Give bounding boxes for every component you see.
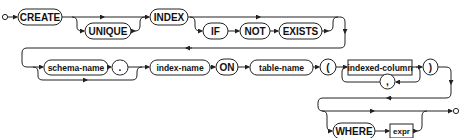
svg-text:schema-name: schema-name: [48, 63, 105, 73]
svg-text:ON: ON: [220, 62, 235, 73]
svg-text:WHERE: WHERE: [335, 126, 373, 137]
svg-text:NOT: NOT: [244, 26, 265, 37]
svg-text:index-name: index-name: [156, 63, 204, 73]
nonterminal-table-name: table-name: [250, 60, 313, 75]
terminal-unique: UNIQUE: [85, 23, 131, 39]
terminal-if: IF: [203, 23, 228, 39]
svg-text:IF: IF: [211, 26, 220, 37]
terminal-index: INDEX: [150, 9, 188, 25]
nonterminal-indexed-column: indexed-column: [347, 60, 412, 75]
svg-text:UNIQUE: UNIQUE: [89, 26, 128, 37]
svg-text:CREATE: CREATE: [20, 12, 61, 23]
start-point-icon: [2, 14, 7, 19]
terminal-dot: .: [112, 60, 128, 75]
svg-text:table-name: table-name: [259, 63, 304, 73]
terminal-comma: ,: [380, 74, 395, 89]
svg-text:.: .: [119, 62, 122, 73]
svg-text:,: ,: [386, 76, 389, 87]
create-index-syntax-diagram: CREATE UNIQUE INDEX IF NOT EXISTS schema…: [0, 0, 461, 138]
terminal-not: NOT: [240, 23, 270, 39]
svg-text:): ): [429, 62, 432, 73]
svg-text:expr: expr: [393, 127, 410, 136]
terminal-on: ON: [216, 59, 238, 75]
svg-text:EXISTS: EXISTS: [283, 26, 319, 37]
svg-text:INDEX: INDEX: [154, 12, 185, 23]
nonterminal-schema-name: schema-name: [44, 60, 108, 75]
nonterminal-index-name: index-name: [150, 60, 210, 75]
end-point-icon: [453, 108, 458, 113]
terminal-rparen: ): [423, 59, 438, 75]
terminal-lparen: (: [320, 59, 336, 75]
terminal-where: WHERE: [333, 123, 375, 138]
terminal-create: CREATE: [18, 9, 62, 25]
svg-text:indexed-column: indexed-column: [347, 63, 412, 73]
terminal-exists: EXISTS: [279, 23, 322, 39]
nonterminal-expr: expr: [390, 124, 413, 138]
